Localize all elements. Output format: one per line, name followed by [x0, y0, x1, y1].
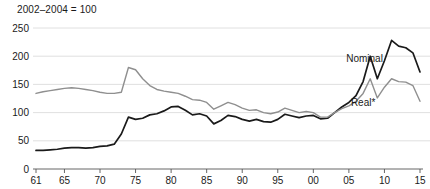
x-tick-label-65: 65	[59, 175, 71, 186]
x-tick-label-80: 80	[166, 175, 178, 186]
nominal-label: Nominal	[346, 53, 383, 64]
y-axis-tick-labels: 050100150200250	[12, 23, 29, 175]
x-tick-label-15: 15	[414, 175, 426, 186]
chart-container: 2002–2004 = 100 050100150200250 61657075…	[0, 0, 430, 189]
y-tick-label-50: 50	[18, 135, 30, 146]
gridlines-group	[33, 28, 430, 141]
y-tick-label-100: 100	[12, 107, 29, 118]
y-tick-label-250: 250	[12, 23, 29, 34]
real-label: Real*	[351, 97, 376, 108]
x-tick-label-00: 00	[308, 175, 320, 186]
y-tick-label-150: 150	[12, 79, 29, 90]
x-axis-tick-labels: 616570758085909500051015	[30, 175, 426, 186]
y-tick-label-0: 0	[23, 164, 29, 175]
x-tick-label-70: 70	[94, 175, 106, 186]
chart-plot: 050100150200250 616570758085909500051015…	[0, 0, 430, 189]
x-tick-label-61: 61	[30, 175, 42, 186]
x-tick-label-75: 75	[130, 175, 142, 186]
series-line-real	[36, 67, 420, 117]
x-tick-label-05: 05	[343, 175, 355, 186]
x-tick-label-10: 10	[379, 175, 391, 186]
series-annotations-group: NominalReal*	[346, 53, 383, 108]
x-axis-line-group	[33, 169, 423, 173]
x-tick-label-85: 85	[201, 175, 213, 186]
y-tick-label-200: 200	[12, 51, 29, 62]
x-tick-label-95: 95	[272, 175, 284, 186]
x-tick-label-90: 90	[237, 175, 249, 186]
